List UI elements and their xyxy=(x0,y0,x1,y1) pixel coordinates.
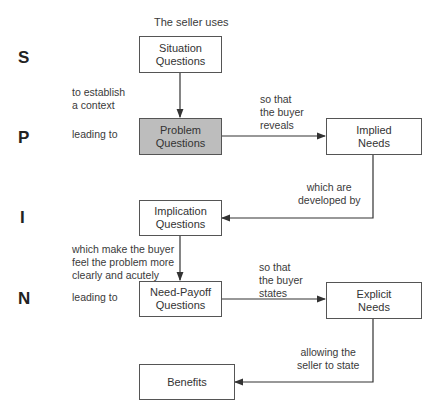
stage-letter-s: S xyxy=(18,48,29,68)
caption-leading-to-p: leading to xyxy=(72,128,118,141)
caption-seller-to-state: allowing the seller to state xyxy=(297,346,359,372)
caption-buyer-reveals: so that the buyer reveals xyxy=(260,93,304,132)
implied-needs-label: Implied Needs xyxy=(356,124,391,150)
situation-questions-box: Situation Questions xyxy=(139,36,222,73)
need-payoff-questions-label: Need-Payoff Questions xyxy=(150,286,211,312)
explicit-needs-label: Explicit Needs xyxy=(357,288,392,314)
diagram-title: The seller uses xyxy=(154,16,229,29)
caption-feel-problem: which make the buyer feel the problem mo… xyxy=(72,243,174,282)
caption-buyer-states: so that the buyer states xyxy=(259,261,303,300)
situation-questions-label: Situation Questions xyxy=(156,42,206,68)
need-payoff-questions-box: Need-Payoff Questions xyxy=(139,281,222,317)
caption-leading-to-n: leading to xyxy=(72,291,118,304)
stage-letter-p: P xyxy=(18,128,29,148)
problem-questions-box: Problem Questions xyxy=(139,118,222,155)
stage-letter-n: N xyxy=(18,289,30,309)
implication-questions-label: Implication Questions xyxy=(154,205,207,231)
implied-needs-box: Implied Needs xyxy=(326,118,422,155)
caption-developed-by: which are developed by xyxy=(298,181,360,207)
benefits-label: Benefits xyxy=(167,376,207,389)
implication-questions-box: Implication Questions xyxy=(139,200,222,236)
problem-questions-label: Problem Questions xyxy=(156,124,206,150)
benefits-box: Benefits xyxy=(139,364,235,400)
stage-letter-i: I xyxy=(20,208,25,228)
caption-establish-context: to establish a context xyxy=(72,86,125,112)
explicit-needs-box: Explicit Needs xyxy=(326,282,422,319)
